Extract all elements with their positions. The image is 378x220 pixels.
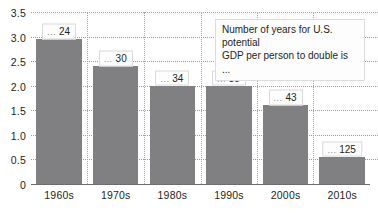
bar-2000s[interactable]: ... 43 xyxy=(263,105,308,184)
bar-slot-1960s: ... 24 xyxy=(36,12,81,184)
bar-1980s[interactable]: ... 34 xyxy=(150,86,195,184)
callout-value: 24 xyxy=(59,26,70,37)
bar-value-callout-2010s: ... 125 xyxy=(322,141,361,157)
annotation-line-1: Number of years for U.S. potential xyxy=(222,23,359,49)
bar-1990s[interactable]: ... 35 xyxy=(206,86,251,184)
bar-value-callout-2000s: ... 43 xyxy=(269,90,303,106)
x-label-1990s: 1990s xyxy=(206,189,251,201)
bar-value-callout-1980s: ... 34 xyxy=(155,70,189,86)
x-label-2010s: 2010s xyxy=(319,189,364,201)
y-tick-label: 3.5 xyxy=(11,7,26,19)
x-label-1970s: 1970s xyxy=(93,189,138,201)
bar-2010s[interactable]: ... 125 xyxy=(319,157,364,184)
y-tick-label: 1.5 xyxy=(11,105,26,117)
bar-1960s[interactable]: ... 24 xyxy=(36,39,81,184)
x-label-1960s: 1960s xyxy=(36,189,81,201)
y-tick-label: 0.5 xyxy=(11,154,26,166)
y-tick-label: 3.0 xyxy=(11,32,26,44)
axis-line-zero: 0 xyxy=(31,184,370,185)
y-tick-label: 1.0 xyxy=(11,130,26,142)
x-axis-labels: 1960s 1970s 1980s 1990s 2000s 2010s xyxy=(31,189,370,205)
bar-slot-1980s: ... 34 xyxy=(150,12,195,184)
annotation-line-2: GDP per person to double is ... xyxy=(222,49,359,75)
y-tick-label: 2.5 xyxy=(11,56,26,68)
callout-value: 43 xyxy=(285,92,296,103)
bar-chart: 3.5 3.0 2.5 2.0 1.5 1.0 0.5 0 xyxy=(0,0,378,220)
annotation-note: Number of years for U.S. potential GDP p… xyxy=(215,19,365,81)
bar-1970s[interactable]: ... 30 xyxy=(93,66,138,184)
y-tick-label: 0 xyxy=(20,179,26,191)
x-label-2000s: 2000s xyxy=(263,189,308,201)
x-label-1980s: 1980s xyxy=(150,189,195,201)
callout-value: 34 xyxy=(172,72,183,83)
y-tick-label: 2.0 xyxy=(11,81,26,93)
bar-slot-1970s: ... 30 xyxy=(93,12,138,184)
bar-value-callout-1960s: ... 24 xyxy=(42,24,76,40)
callout-value: 125 xyxy=(339,143,356,154)
bar-value-callout-1970s: ... 30 xyxy=(99,51,133,67)
callout-value: 30 xyxy=(116,53,127,64)
